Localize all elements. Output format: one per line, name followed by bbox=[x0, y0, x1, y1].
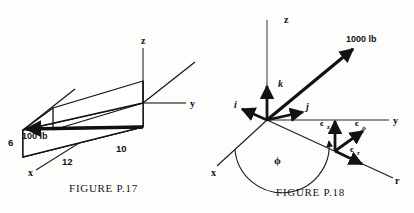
p18-x-axis bbox=[217, 120, 267, 166]
figure-p18-caption: FIGURE P.18 bbox=[207, 186, 414, 198]
p17-dim-depth: 12 bbox=[62, 156, 73, 167]
svg-text:ϕ: ϕ bbox=[362, 124, 366, 131]
p17-dim-height: 6 bbox=[8, 137, 13, 148]
p18-j-label: j bbox=[304, 101, 309, 112]
p18-i-vector bbox=[242, 109, 267, 120]
figure-p18-drawing: z y x r k j i ϵ z ϵ ϕ ϵ r ϕ 10 bbox=[207, 0, 414, 213]
figure-p18: z y x r k j i ϵ z ϵ ϕ ϵ r ϕ 10 bbox=[207, 0, 414, 213]
svg-text:ϵ: ϵ bbox=[350, 144, 354, 154]
p17-force-vector bbox=[26, 127, 143, 129]
svg-text:ϵ: ϵ bbox=[320, 118, 324, 128]
svg-text:ϵ: ϵ bbox=[355, 118, 359, 128]
p17-x-label: x bbox=[28, 167, 33, 178]
p18-x-label: x bbox=[211, 167, 216, 178]
figure-page: z y x 6 12 10 100 lb FIGURE P.17 bbox=[0, 0, 414, 213]
p18-cylindrical-triad bbox=[335, 121, 363, 164]
p18-r-label: r bbox=[395, 175, 400, 186]
p18-y-label: y bbox=[393, 115, 398, 126]
p18-phi-arc bbox=[235, 141, 329, 193]
p18-eps-r-label: ϵ r bbox=[350, 144, 360, 156]
p17-force-label: 100 lb bbox=[22, 131, 48, 141]
svg-text:z: z bbox=[327, 123, 330, 130]
p17-z-label: z bbox=[141, 35, 146, 46]
p18-phi-label: ϕ bbox=[274, 154, 281, 166]
p18-k-label: k bbox=[278, 78, 283, 89]
p18-eps-phi-vector bbox=[335, 131, 363, 151]
p18-z-label: z bbox=[284, 14, 289, 25]
p17-dim-length: 10 bbox=[116, 143, 127, 154]
p17-y-label: y bbox=[190, 98, 195, 109]
figure-p17-caption: FIGURE P.17 bbox=[0, 182, 207, 194]
svg-text:r: r bbox=[357, 149, 360, 156]
figure-p17: z y x 6 12 10 100 lb FIGURE P.17 bbox=[0, 0, 207, 213]
p18-i-label: i bbox=[234, 99, 237, 110]
p18-r-axis bbox=[267, 120, 393, 178]
p18-force-label: 1000 lb bbox=[346, 34, 377, 44]
